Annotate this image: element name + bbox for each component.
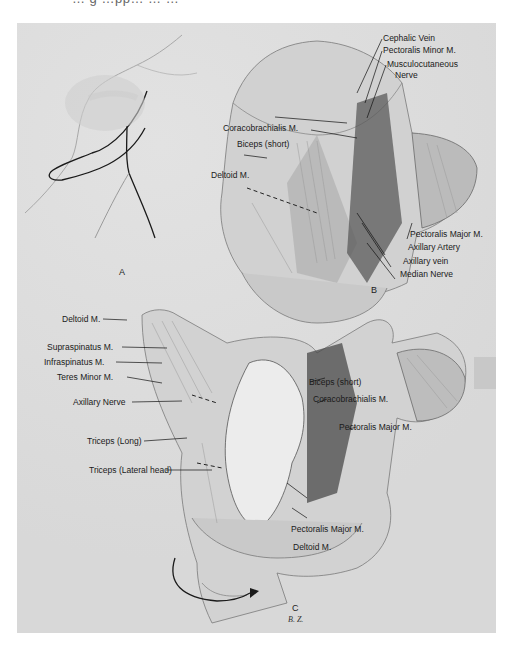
cropped-caption-fragment: … g …pp… … … (0, 0, 515, 20)
label-deltoid-lower: Deltoid M. (293, 542, 331, 552)
label-triceps-long: Triceps (Long) (87, 436, 141, 446)
label-coracobrachialis: Coracobrachialis M. (223, 123, 298, 133)
label-triceps-lateral-head: Triceps (Lateral head) (89, 465, 172, 475)
label-supraspinatus: Supraspinatus M. (47, 342, 113, 352)
label-median-nerve: Median Nerve (400, 269, 453, 279)
panel-c-dissection (142, 310, 466, 623)
label-biceps-short: Biceps (short) (309, 377, 361, 387)
label-axillary-vein: Axillary vein (403, 256, 448, 266)
label-pectoralis-major-lower: Pectoralis Major M. (291, 524, 364, 534)
label-cephalic-vein: Cephalic Vein (383, 33, 435, 43)
label-musculocutaneous-nerve: Nerve (395, 70, 418, 80)
panel-b-dissection (221, 41, 477, 323)
label-teres-minor: Teres Minor M. (57, 372, 113, 382)
caption-fragment: … g …pp… … … (72, 0, 179, 6)
panel-c-letter: C (292, 603, 299, 613)
label-deltoid: Deltoid M. (62, 314, 100, 324)
label-pectoralis-major: Pectoralis Major M. (410, 229, 483, 239)
panel-b-letter: B (371, 285, 377, 295)
label-axillary-artery: Axillary Artery (408, 242, 460, 252)
label-pectoralis-major: Pectoralis Major M. (339, 422, 412, 432)
label-coracobrachialis: Coracobrachialis M. (313, 394, 388, 404)
panel-a-shoulder-sketch (25, 35, 197, 238)
artist-signature: B. Z. (288, 615, 303, 624)
label-axillary-nerve: Axillary Nerve (73, 397, 125, 407)
illustration-drawing (17, 23, 496, 633)
label-infraspinatus: Infraspinatus M. (44, 357, 104, 367)
label-biceps-short: Biceps (short) (237, 139, 289, 149)
label-musculocutaneous: Musculocutaneous (387, 59, 458, 69)
panel-a-letter: A (119, 267, 125, 277)
label-deltoid: Deltoid M. (211, 170, 249, 180)
anatomical-illustration-plate: A Cephalic Vein Pectoralis Minor M. Musc… (17, 23, 496, 633)
label-pectoralis-minor: Pectoralis Minor M. (383, 45, 456, 55)
